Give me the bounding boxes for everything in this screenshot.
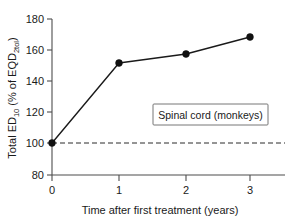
y-axis-title-mid: (% of EQD: [6, 53, 18, 109]
line-chart-canvas: 180 160 140 120 100 80 0 1 2 3 Time afte…: [0, 0, 292, 223]
x-tick-label: 0: [49, 184, 55, 196]
y-axis-ticks: [47, 19, 52, 175]
x-tick-label: 3: [247, 184, 253, 196]
y-axis-title-pre: Total ED: [6, 117, 18, 159]
series-markers: [49, 34, 254, 147]
svg-text:Total ED10 (% of EQD2tol): Total ED10 (% of EQD2tol): [6, 37, 21, 158]
annotation-spinal-cord: Spinal cord (monkeys): [153, 104, 268, 125]
x-tick-label: 2: [183, 184, 189, 196]
series-line-spinal-cord: [52, 37, 250, 143]
data-point: [49, 140, 56, 147]
y-axis-title-sub1: 10: [12, 109, 21, 117]
y-axis-tick-labels: 180 160 140 120 100 80: [26, 13, 44, 181]
x-axis-tick-labels: 0 1 2 3: [49, 184, 253, 196]
data-point: [183, 51, 190, 58]
data-point: [247, 34, 254, 41]
y-tick-label: 100: [26, 137, 44, 149]
y-tick-label: 120: [26, 106, 44, 118]
y-tick-label: 80: [32, 169, 44, 181]
x-tick-label: 1: [116, 184, 122, 196]
annotation-label: Spinal cord (monkeys): [158, 109, 262, 121]
y-axis-title-sub2: 2tol: [12, 41, 21, 53]
y-tick-label: 160: [26, 44, 44, 56]
y-axis-title-post: ): [6, 37, 18, 41]
y-tick-label: 140: [26, 75, 44, 87]
y-axis-title: Total ED10 (% of EQD2tol): [6, 37, 21, 158]
y-tick-label: 180: [26, 13, 44, 25]
data-point: [116, 60, 123, 67]
x-axis-title: Time after first treatment (years): [82, 204, 239, 216]
x-axis-ticks: [52, 175, 250, 181]
chart-figure: 180 160 140 120 100 80 0 1 2 3 Time afte…: [0, 0, 292, 223]
